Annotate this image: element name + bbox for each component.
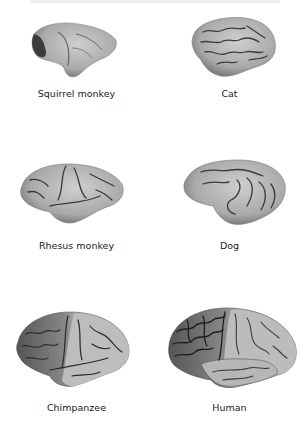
cat-label: Cat bbox=[153, 88, 306, 99]
chimpanzee-brain-image bbox=[12, 306, 134, 392]
squirrel-monkey-label: Squirrel monkey bbox=[0, 88, 153, 99]
human-brain-image bbox=[163, 302, 301, 394]
panel-chimpanzee: Chimpanzee bbox=[0, 290, 153, 423]
panel-dog: Dog bbox=[153, 140, 306, 270]
panel-squirrel-monkey: Squirrel monkey bbox=[0, 0, 153, 110]
panel-rhesus-monkey: Rhesus monkey bbox=[0, 140, 153, 270]
panel-cat: Cat bbox=[153, 0, 306, 110]
rhesus-monkey-brain-image bbox=[16, 156, 128, 228]
chimpanzee-label: Chimpanzee bbox=[0, 402, 153, 413]
cat-brain-image bbox=[187, 12, 279, 82]
squirrel-monkey-brain-image bbox=[28, 18, 120, 80]
dog-brain-image bbox=[181, 154, 289, 232]
human-label: Human bbox=[153, 402, 306, 413]
dog-label: Dog bbox=[153, 240, 306, 251]
rhesus-monkey-label: Rhesus monkey bbox=[0, 240, 153, 251]
panel-human: Human bbox=[153, 290, 306, 423]
